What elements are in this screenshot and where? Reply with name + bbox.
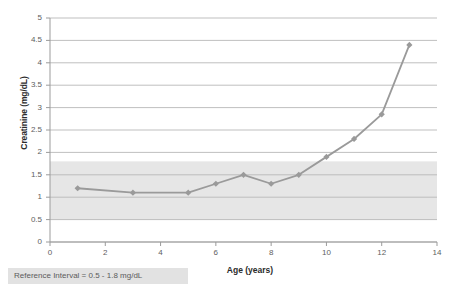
y-tick-label: 2 [16,147,42,156]
x-tick-label: 4 [148,248,174,257]
data-point-marker [406,42,412,48]
x-axis-title: Age (years) [170,265,330,275]
x-tick-label: 8 [258,248,284,257]
y-tick-label: 0 [16,237,42,246]
reference-interval-caption: Reference Interval = 0.5 - 1.8 mg/dL [8,268,188,284]
y-tick-label: 4.5 [16,35,42,44]
x-tick-label: 14 [424,248,450,257]
y-tick-label: 3 [16,103,42,112]
y-tick-label: 1 [16,192,42,201]
x-tick-label: 12 [369,248,395,257]
y-tick-label: 2.5 [16,125,42,134]
y-tick-label: 3.5 [16,80,42,89]
y-tick-label: 0.5 [16,215,42,224]
y-tick-label: 1.5 [16,170,42,179]
y-tick-label: 5 [16,13,42,22]
x-tick-label: 2 [92,248,118,257]
x-tick-label: 6 [203,248,229,257]
x-tick-label: 0 [37,248,63,257]
creatinine-vs-age-chart: Creatinine (mg/dL) Age (years) Reference… [0,0,450,292]
x-tick-label: 10 [313,248,339,257]
y-tick-label: 4 [16,58,42,67]
